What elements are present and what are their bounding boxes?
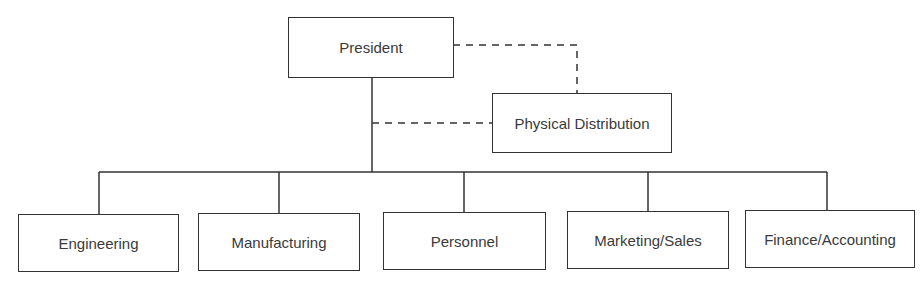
label-finance-accounting: Finance/Accounting xyxy=(764,231,896,248)
label-marketing-sales: Marketing/Sales xyxy=(594,232,702,249)
label-engineering: Engineering xyxy=(58,235,138,252)
label-president: President xyxy=(339,39,402,56)
box-physical-distribution: Physical Distribution xyxy=(492,93,672,153)
dashed-president-to-distribution xyxy=(453,45,577,93)
label-manufacturing: Manufacturing xyxy=(231,234,326,251)
box-manufacturing: Manufacturing xyxy=(198,213,360,271)
box-finance-accounting: Finance/Accounting xyxy=(745,210,915,268)
box-personnel: Personnel xyxy=(383,212,546,270)
box-marketing-sales: Marketing/Sales xyxy=(567,211,729,269)
box-president: President xyxy=(288,17,454,78)
box-engineering: Engineering xyxy=(18,214,179,272)
label-physical-distribution: Physical Distribution xyxy=(514,115,649,132)
label-personnel: Personnel xyxy=(431,233,499,250)
